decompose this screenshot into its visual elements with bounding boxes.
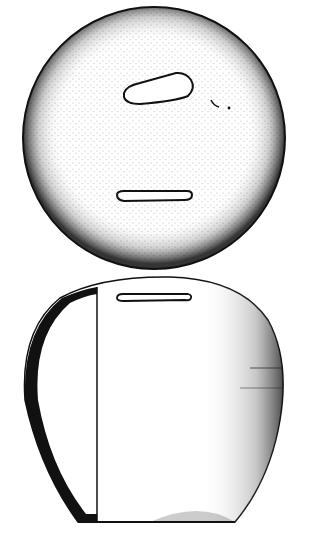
- coin-slot-top: [117, 191, 192, 201]
- vessel-drawing: [0, 0, 310, 537]
- chip-mark-dot: [228, 107, 231, 110]
- profile-view: [24, 277, 283, 522]
- coin-slot-profile: [117, 294, 191, 301]
- top-view: [23, 7, 285, 269]
